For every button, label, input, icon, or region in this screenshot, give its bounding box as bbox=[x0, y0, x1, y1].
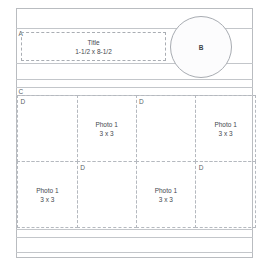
photo-cell[interactable]: Photo 1 3 x 3 bbox=[195, 95, 256, 162]
guide-rule-grid-bottom bbox=[16, 229, 253, 230]
photo-cell-name: Photo 1 bbox=[214, 120, 236, 129]
photo-cell-dimensions: 3 x 3 bbox=[40, 195, 54, 204]
photo-cell[interactable]: Photo 1 3 x 3 bbox=[77, 95, 137, 162]
title-placeholder-name: Title bbox=[87, 38, 99, 47]
zone-label-c: C bbox=[19, 88, 24, 95]
photo-grid-row: Photo 1 3 x 3 D Photo 1 3 x 3 D bbox=[18, 162, 256, 228]
zone-label-d: D bbox=[139, 98, 144, 105]
layout-template-diagram: A Title 1-1/2 x 8-1/2 B C D Photo 1 3 x … bbox=[0, 0, 267, 266]
circle-placeholder-b[interactable]: B bbox=[170, 16, 232, 78]
title-placeholder-dimensions: 1-1/2 x 8-1/2 bbox=[75, 47, 112, 56]
photo-cell-name: Photo 1 bbox=[36, 186, 58, 195]
photo-cell-dimensions: 3 x 3 bbox=[100, 129, 114, 138]
photo-cell-name: Photo 1 bbox=[155, 186, 177, 195]
photo-cell[interactable]: Photo 1 3 x 3 bbox=[136, 161, 197, 228]
guide-rule-zone-c-top bbox=[16, 87, 253, 88]
photo-grid-row: D Photo 1 3 x 3 D Photo 1 3 x 3 bbox=[18, 96, 256, 162]
zone-label-b: B bbox=[199, 44, 204, 51]
photo-cell-dimensions: 3 x 3 bbox=[159, 195, 173, 204]
zone-label-d: D bbox=[80, 164, 85, 171]
guide-rule-footer-top bbox=[16, 237, 253, 238]
photo-cell-dimensions: 3 x 3 bbox=[219, 129, 233, 138]
photo-cell[interactable]: D bbox=[136, 95, 197, 162]
photo-cell-name: Photo 1 bbox=[95, 120, 117, 129]
photo-cell[interactable]: D bbox=[195, 161, 256, 228]
title-placeholder-box[interactable]: Title 1-1/2 x 8-1/2 bbox=[21, 32, 166, 61]
zone-label-d: D bbox=[199, 164, 204, 171]
zone-label-d: D bbox=[21, 98, 26, 105]
photo-cell[interactable]: Photo 1 3 x 3 bbox=[17, 161, 78, 228]
photo-cell[interactable]: D bbox=[77, 161, 137, 228]
guide-rule-footer-bottom bbox=[16, 252, 253, 253]
guide-rule-band-lower bbox=[16, 79, 253, 80]
photo-grid: D Photo 1 3 x 3 D Photo 1 3 x 3 bbox=[18, 96, 256, 228]
photo-cell[interactable]: D bbox=[17, 95, 78, 162]
